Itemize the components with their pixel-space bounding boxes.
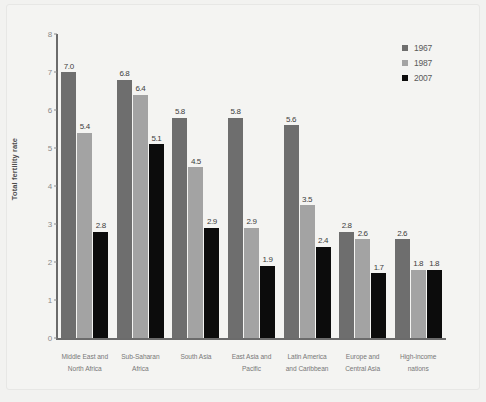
legend-swatch-icon xyxy=(402,60,408,66)
x-axis-category-line: and Caribbean xyxy=(286,363,329,375)
x-axis-category-line: nations xyxy=(400,363,436,375)
bar-rect[interactable] xyxy=(300,205,315,338)
bar-rect[interactable] xyxy=(260,266,275,338)
x-axis-category-label: South Asia xyxy=(180,351,211,363)
x-axis-category-line: South Asia xyxy=(180,351,211,363)
bar-rect[interactable] xyxy=(371,273,386,338)
y-axis-tick-label: 2 xyxy=(48,258,52,267)
bar-2007[interactable]: 2.4 xyxy=(316,34,331,338)
bar-value-label: 6.4 xyxy=(135,84,145,93)
bar-group-bars: 5.82.91.9 xyxy=(224,34,280,338)
bar-1967[interactable]: 5.8 xyxy=(228,34,243,338)
bar-2007[interactable]: 2.8 xyxy=(93,34,108,338)
bar-rect[interactable] xyxy=(188,167,203,338)
bar-value-label: 5.8 xyxy=(175,107,185,116)
bar-rect[interactable] xyxy=(133,95,148,338)
legend-item-1967[interactable]: 1967 xyxy=(402,43,432,53)
bar-value-label: 3.5 xyxy=(302,195,312,204)
bar-value-label: 1.8 xyxy=(413,259,423,268)
x-axis-category-line: Pacific xyxy=(232,363,272,375)
x-axis-category-line: Central Asia xyxy=(345,363,380,375)
x-axis-category-label: Latin Americaand Caribbean xyxy=(286,351,329,375)
bar-rect[interactable] xyxy=(172,118,187,338)
x-axis-category-label: Middle East andNorth Africa xyxy=(62,351,109,375)
bar-1967[interactable]: 5.8 xyxy=(172,34,187,338)
bar-group-bars: 5.84.52.9 xyxy=(168,34,224,338)
legend-label: 1967 xyxy=(414,43,432,53)
bar-group-bars: 6.86.45.1 xyxy=(113,34,169,338)
bar-2007[interactable]: 1.9 xyxy=(260,34,275,338)
bar-rect[interactable] xyxy=(411,270,426,338)
legend-swatch-icon xyxy=(402,75,408,81)
bar-value-label: 2.9 xyxy=(247,217,257,226)
bar-1987[interactable]: 2.6 xyxy=(355,34,370,338)
y-axis-tick-label: 0 xyxy=(48,334,52,343)
bar-rect[interactable] xyxy=(93,232,108,338)
bar-2007[interactable]: 5.1 xyxy=(149,34,164,338)
bar-value-label: 1.8 xyxy=(429,259,439,268)
bar-value-label: 5.4 xyxy=(80,122,90,131)
bar-rect[interactable] xyxy=(204,228,219,338)
bar-group: 5.63.52.4Latin Americaand Caribbean xyxy=(279,34,335,338)
bar-rect[interactable] xyxy=(228,118,243,338)
bar-1987[interactable]: 3.5 xyxy=(300,34,315,338)
legend-item-1987[interactable]: 1987 xyxy=(402,58,432,68)
bar-rect[interactable] xyxy=(355,239,370,338)
bar-1987[interactable]: 4.5 xyxy=(188,34,203,338)
bar-value-label: 5.8 xyxy=(231,107,241,116)
bar-1967[interactable]: 2.8 xyxy=(339,34,354,338)
x-axis-category-label: High-incomenations xyxy=(400,351,436,375)
x-axis-category-line: Middle East and xyxy=(62,351,109,363)
y-axis-label: Total fertility rate xyxy=(10,138,19,200)
bar-rect[interactable] xyxy=(339,232,354,338)
legend-label: 1987 xyxy=(414,58,432,68)
bar-rect[interactable] xyxy=(427,270,442,338)
y-axis-tick-label: 4 xyxy=(48,182,52,191)
y-axis-tick-label: 3 xyxy=(48,220,52,229)
bar-rect[interactable] xyxy=(117,80,132,338)
x-axis-category-label: Sub-SaharanAfrica xyxy=(121,351,159,375)
bar-rect[interactable] xyxy=(149,144,164,338)
bar-rect[interactable] xyxy=(77,133,92,338)
x-axis-category-line: Africa xyxy=(121,363,159,375)
y-axis-tick-label: 6 xyxy=(48,106,52,115)
chart-legend: 196719872007 xyxy=(402,43,432,83)
bar-group-bars: 2.82.61.7 xyxy=(335,34,391,338)
bar-value-label: 1.7 xyxy=(374,263,384,272)
bar-rect[interactable] xyxy=(244,228,259,338)
bar-group: 5.82.91.9East Asia andPacific xyxy=(224,34,280,338)
bar-value-label: 2.6 xyxy=(397,229,407,238)
x-axis-category-line: High-income xyxy=(400,351,436,363)
bar-rect[interactable] xyxy=(395,239,410,338)
bar-1987[interactable]: 6.4 xyxy=(133,34,148,338)
x-axis-category-line: East Asia and xyxy=(232,351,272,363)
x-axis-line xyxy=(56,338,446,340)
bar-value-label: 5.1 xyxy=(151,134,161,143)
bar-value-label: 2.8 xyxy=(342,221,352,230)
bar-1967[interactable]: 7.0 xyxy=(61,34,76,338)
bar-1987[interactable]: 2.9 xyxy=(244,34,259,338)
x-axis-category-line: Sub-Saharan xyxy=(121,351,159,363)
plot-area: 8765432107.05.42.8Middle East andNorth A… xyxy=(57,34,446,338)
bar-group-bars: 5.63.52.4 xyxy=(279,34,335,338)
bar-value-label: 5.6 xyxy=(286,115,296,124)
bar-value-label: 2.4 xyxy=(318,236,328,245)
bar-2007[interactable]: 1.7 xyxy=(371,34,386,338)
bar-group: 6.86.45.1Sub-SaharanAfrica xyxy=(113,34,169,338)
x-axis-category-line: Europe and xyxy=(345,351,380,363)
bar-1967[interactable]: 6.8 xyxy=(117,34,132,338)
bar-group-bars: 7.05.42.8 xyxy=(57,34,113,338)
bar-group: 5.84.52.9South Asia xyxy=(168,34,224,338)
y-axis-tick-label: 7 xyxy=(48,68,52,77)
bar-1987[interactable]: 5.4 xyxy=(77,34,92,338)
bar-rect[interactable] xyxy=(284,125,299,338)
bar-value-label: 6.8 xyxy=(119,69,129,78)
legend-item-2007[interactable]: 2007 xyxy=(402,73,432,83)
bar-1967[interactable]: 5.6 xyxy=(284,34,299,338)
bar-rect[interactable] xyxy=(316,247,331,338)
bar-rect[interactable] xyxy=(61,72,76,338)
chart-page: Total fertility rate 8765432107.05.42.8M… xyxy=(0,0,486,402)
bar-2007[interactable]: 2.9 xyxy=(204,34,219,338)
legend-label: 2007 xyxy=(414,73,432,83)
x-axis-category-label: Europe andCentral Asia xyxy=(345,351,380,375)
